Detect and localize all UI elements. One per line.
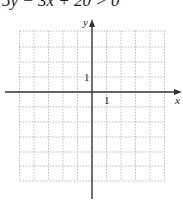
x-tick-label: 1: [104, 94, 110, 106]
x-axis-label: x: [175, 94, 180, 106]
y-axis-arrow-icon: [89, 19, 95, 27]
y-tick-label: 1: [84, 71, 90, 83]
y-axis-label: y: [83, 16, 88, 28]
coordinate-grid: [0, 0, 183, 203]
